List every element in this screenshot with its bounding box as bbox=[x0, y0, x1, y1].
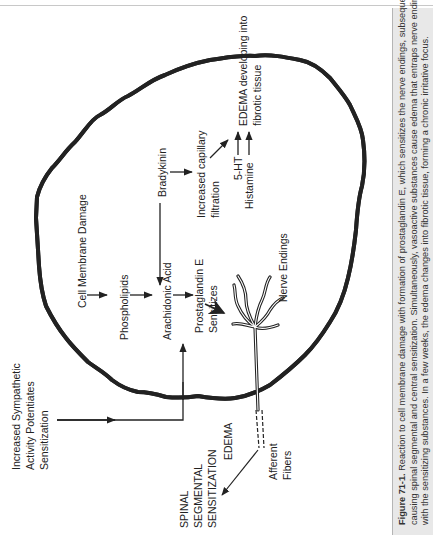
caption-line-3: with the sensitizing substances. In a fe… bbox=[420, 36, 430, 526]
label-afferent-fibers: Afferent Fibers bbox=[267, 443, 293, 480]
svg-text:Fibers: Fibers bbox=[281, 451, 293, 480]
svg-text:Increased capillary: Increased capillary bbox=[195, 130, 207, 218]
label-sympathetic: Increased Sympathetic Activity Potentiat… bbox=[10, 363, 50, 470]
nerve-endings-drawing bbox=[233, 276, 283, 410]
svg-text:SEGMENTAL: SEGMENTAL bbox=[192, 464, 204, 528]
label-phospholipids: Phospholipids bbox=[118, 275, 130, 340]
label-arachidonic-acid: Arachidonic Acid bbox=[161, 262, 173, 340]
arrow-capillary-to-edema bbox=[210, 140, 228, 158]
svg-text:Sensitizes: Sensitizes bbox=[207, 285, 219, 333]
sympathetic-pathway-arrow bbox=[57, 344, 183, 420]
label-edema: EDEMA bbox=[222, 423, 234, 460]
figure-caption-text: Figure 71-1. Reaction to cell membrane d… bbox=[397, 0, 430, 526]
svg-text:SPINAL: SPINAL bbox=[178, 490, 190, 528]
svg-text:Prostaglandin E: Prostaglandin E bbox=[193, 259, 205, 333]
figure-caption-box: Figure 71-1. Reaction to cell membrane d… bbox=[392, 0, 433, 535]
label-prostaglandin-e: Prostaglandin E Sensitizes bbox=[193, 259, 219, 333]
label-edema-developing-fibrotic: EDEMA developing into fibrotic tissue bbox=[237, 16, 263, 126]
caption-line-1: Reaction to cell membrane damage with fo… bbox=[397, 0, 407, 473]
svg-text:filtration: filtration bbox=[209, 181, 221, 218]
svg-text:Activity Potentiates: Activity Potentiates bbox=[24, 381, 36, 470]
figure-71-1: Increased Sympathetic Activity Potentiat… bbox=[0, 0, 433, 535]
figure-number: Figure 71-1. bbox=[397, 473, 407, 525]
svg-text:Sensitization: Sensitization bbox=[38, 410, 50, 470]
caption-line-2: causing spinal segmental and central sen… bbox=[409, 0, 419, 525]
svg-text:Increased Sympathetic: Increased Sympathetic bbox=[10, 363, 22, 470]
svg-text:Afferent: Afferent bbox=[267, 443, 279, 480]
label-cell-membrane-damage: Cell Membrane Damage bbox=[76, 194, 88, 308]
svg-text:Figure 71-1. Reaction to cell: Figure 71-1. Reaction to cell membrane d… bbox=[397, 0, 407, 525]
label-bradykinin: Bradykinin bbox=[156, 148, 168, 197]
svg-text:fibrotic tissue: fibrotic tissue bbox=[251, 65, 263, 126]
label-histamine: Histamine bbox=[243, 162, 255, 209]
svg-text:SENSITIZATION: SENSITIZATION bbox=[206, 449, 218, 528]
label-spinal-segmental-sensitization: SPINAL SEGMENTAL SENSITIZATION bbox=[178, 449, 218, 528]
diagram-canvas: Increased Sympathetic Activity Potentiat… bbox=[0, 0, 433, 535]
label-nerve-endings: Nerve Endings bbox=[277, 233, 289, 302]
svg-text:EDEMA developing into: EDEMA developing into bbox=[237, 16, 249, 126]
label-increased-capillary-filtration: Increased capillary filtration bbox=[195, 130, 221, 218]
